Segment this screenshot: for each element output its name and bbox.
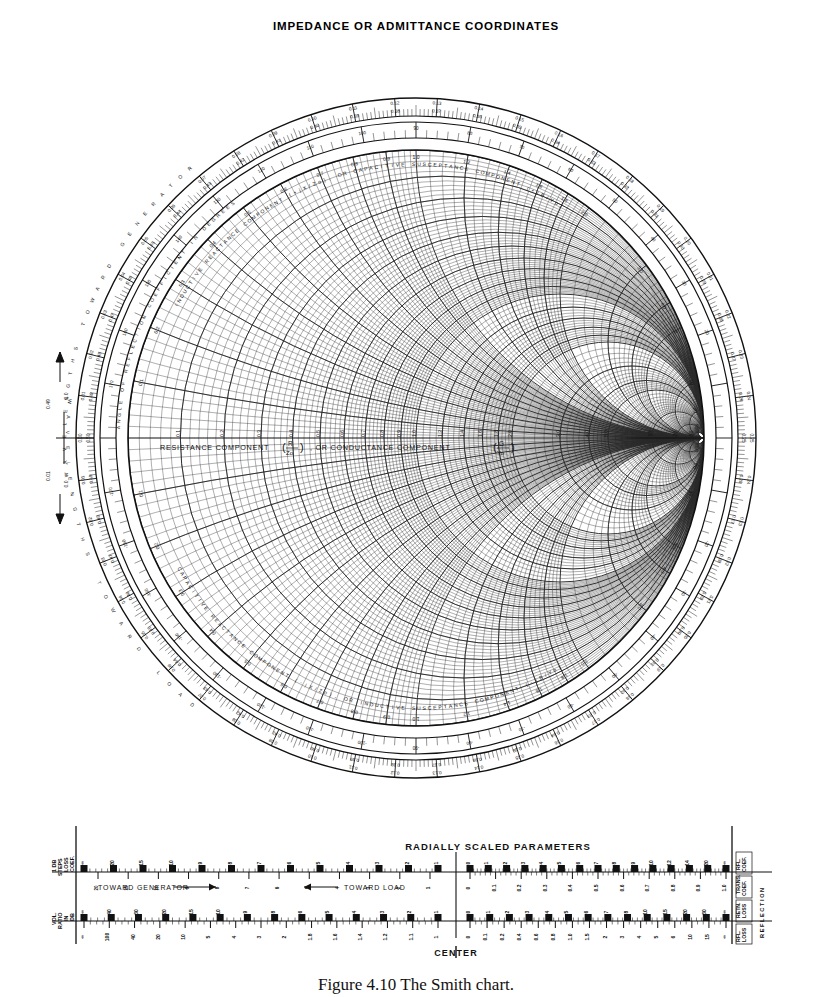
svg-text:8: 8 (270, 910, 276, 913)
svg-text:3: 3 (520, 861, 526, 864)
rsp-svg: RADIALLY SCALED PARAMETERS ∞201510987654… (38, 826, 794, 966)
svg-text:5: 5 (556, 861, 562, 864)
svg-text:0.7: 0.7 (360, 430, 366, 437)
svg-text:50: 50 (694, 424, 700, 430)
svg-text:1: 1 (485, 910, 491, 913)
svg-text:1.2: 1.2 (382, 933, 388, 940)
svg-text:4: 4 (345, 861, 351, 864)
svg-text:7: 7 (256, 861, 262, 864)
svg-text:4: 4 (636, 935, 642, 938)
svg-text:∞: ∞ (79, 935, 85, 939)
svg-text:0.4: 0.4 (567, 884, 573, 891)
svg-text:30: 30 (133, 909, 139, 915)
svg-text:50: 50 (694, 446, 700, 452)
svg-text:0.7: 0.7 (644, 884, 650, 891)
svg-text:8: 8 (611, 861, 617, 864)
resistance-component-label: RESISTANCE COMPONENT (160, 443, 269, 452)
svg-text:1.0: 1.0 (413, 154, 420, 160)
svg-text:7: 7 (603, 910, 609, 913)
inductive-reactance-caption: C (428, 161, 432, 167)
svg-text:0.5: 0.5 (593, 884, 599, 891)
smith-chart-svg: 0.000.500.010.490.010.490.020.480.020.48… (38, 52, 794, 824)
svg-text:9: 9 (630, 861, 636, 864)
svg-text:15: 15 (704, 934, 710, 940)
svg-text:8: 8 (623, 910, 629, 913)
left-ratio-label: RATIO (57, 913, 63, 929)
reflection-side-label: REFLECTION (759, 886, 765, 938)
svg-text:5: 5 (315, 861, 321, 864)
inductive-reactance-caption: T (385, 162, 389, 168)
svg-text:0.8: 0.8 (670, 884, 676, 891)
svg-text:0.2: 0.2 (219, 430, 225, 437)
svg-text:20: 20 (682, 909, 688, 915)
svg-text:3: 3 (379, 910, 385, 913)
svg-text:2: 2 (504, 910, 510, 913)
svg-text:2: 2 (602, 935, 608, 938)
svg-text:2.0: 2.0 (507, 430, 513, 437)
svg-text:6: 6 (297, 910, 303, 913)
left-coef-label: COEF. (69, 856, 75, 872)
left-db-label: DB (69, 913, 75, 921)
right-rfl-coef-2: COEF. (741, 856, 747, 872)
svg-text:20: 20 (109, 860, 115, 866)
svg-text:20: 20 (672, 431, 678, 437)
svg-text:10: 10 (168, 860, 174, 866)
svg-text:0.1: 0.1 (482, 933, 488, 940)
svg-text:10: 10 (647, 431, 653, 437)
svg-text:2: 2 (281, 935, 287, 938)
svg-text:0: 0 (465, 861, 471, 864)
svg-text:0.49: 0.49 (45, 399, 51, 409)
svg-text:0.12: 0.12 (390, 770, 400, 776)
svg-text:∞: ∞ (721, 935, 727, 939)
svg-text:1.2: 1.2 (463, 158, 471, 165)
svg-text:0.01: 0.01 (45, 471, 51, 481)
svg-text:∞: ∞ (79, 861, 85, 865)
svg-text:20: 20 (703, 860, 709, 866)
direction-captions: TOWARD GENERATOR TOWARD LOAD (98, 884, 406, 891)
svg-text:9: 9 (197, 861, 203, 864)
svg-text:3: 3 (619, 935, 625, 938)
svg-text:0.37: 0.37 (432, 108, 442, 114)
inductive-reactance-caption: T (444, 162, 448, 168)
svg-text:4: 4 (538, 861, 544, 864)
svg-text:∞: ∞ (79, 910, 85, 914)
capacitive-reactance-caption: U (417, 705, 421, 711)
svg-text:0.37: 0.37 (432, 762, 442, 768)
svg-text:0.6: 0.6 (619, 884, 625, 891)
conductance-component-label: , OR CONDUCTANCE COMPONENT (310, 443, 450, 452)
svg-text:1.4: 1.4 (459, 430, 465, 437)
svg-text:5.0: 5.0 (603, 430, 609, 437)
svg-text:10: 10 (642, 909, 648, 915)
svg-text:20: 20 (692, 463, 699, 469)
svg-text:40: 40 (106, 909, 112, 915)
svg-text:0.13: 0.13 (432, 770, 442, 776)
right-trans-coef-2: COEF. (741, 880, 747, 896)
svg-text:5: 5 (563, 910, 569, 913)
angle-of-reflection-caption: G (117, 413, 122, 417)
svg-text:40: 40 (130, 934, 136, 940)
wavelengths-toward-load-caption: W (67, 399, 73, 405)
svg-text:-90: -90 (412, 745, 419, 750)
svg-text:1.2: 1.2 (437, 430, 443, 437)
svg-text:14: 14 (684, 860, 690, 866)
svg-text:10: 10 (180, 934, 186, 940)
svg-text:(: ( (493, 441, 497, 453)
zo-denominator: Zo (286, 450, 294, 456)
svg-text:0.0: 0.0 (63, 480, 69, 487)
svg-text:20: 20 (161, 909, 167, 915)
svg-text:0.38: 0.38 (391, 108, 401, 114)
svg-text:∞: ∞ (721, 910, 727, 914)
right-rfl-loss-2: LOSS (741, 927, 747, 942)
svg-text:1.8: 1.8 (307, 933, 313, 940)
svg-text:1: 1 (433, 861, 439, 864)
svg-text:0.3: 0.3 (542, 884, 548, 891)
svg-text:0.9: 0.9 (396, 430, 402, 437)
svg-text:7: 7 (593, 861, 599, 864)
svg-text:0.12: 0.12 (390, 100, 400, 106)
svg-text:10: 10 (648, 860, 654, 866)
svg-text:4: 4 (231, 935, 237, 938)
angle-of-reflection-caption: E (118, 400, 123, 404)
svg-text:1: 1 (426, 886, 431, 889)
svg-text:0.6: 0.6 (339, 430, 345, 437)
svg-text:10: 10 (687, 934, 693, 940)
